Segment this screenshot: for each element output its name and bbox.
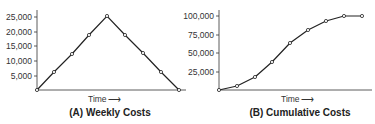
- chart-a-line: [37, 16, 179, 90]
- chart-a-markers: [35, 14, 180, 91]
- chart-a-ytick-5000: 5,000: [11, 71, 33, 81]
- chart-b-ytick-100000: 100,000: [183, 11, 214, 21]
- chart-b-markers: [217, 14, 363, 91]
- chart-b-y-ticks: 100,000 75,000 50,000 25,000: [183, 11, 219, 77]
- figure: 25,000 20,000 15,000 10,000 5,000 Time ⟶…: [0, 0, 375, 124]
- chart-a-ytick-15000: 15,000: [6, 41, 32, 51]
- chart-b-ytick-75000: 75,000: [188, 30, 214, 40]
- chart-a-xlabel: Time: [88, 94, 107, 104]
- chart-a-ytick-20000: 20,000: [6, 27, 32, 37]
- chart-a-ytick-25000: 25,000: [6, 12, 32, 22]
- chart-b-line: [219, 16, 362, 90]
- chart-a-ytick-10000: 10,000: [6, 56, 32, 66]
- chart-a-title: (A) Weekly Costs: [69, 107, 151, 118]
- chart-a-y-ticks: 25,000 20,000 15,000 10,000 5,000: [6, 12, 37, 81]
- chart-b-arrow-icon: ⟶: [301, 94, 314, 104]
- chart-b-title: (B) Cumulative Costs: [249, 107, 351, 118]
- chart-a-weekly-costs: 25,000 20,000 15,000 10,000 5,000 Time ⟶…: [6, 10, 186, 118]
- chart-b-ytick-50000: 50,000: [188, 48, 214, 58]
- chart-b-xlabel: Time: [281, 94, 300, 104]
- chart-a-arrow-icon: ⟶: [108, 94, 121, 104]
- chart-b-cumulative-costs: 100,000 75,000 50,000 25,000 Time ⟶ (B) …: [183, 10, 372, 118]
- chart-b-ytick-25000: 25,000: [188, 67, 214, 77]
